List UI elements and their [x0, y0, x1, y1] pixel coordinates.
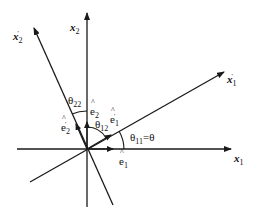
theta11-arc [119, 131, 124, 149]
e1-prime-vector [87, 135, 111, 149]
e1-label: e1 [119, 156, 128, 170]
x2-prime-label: x2' [13, 30, 19, 45]
x2-label: x2 [70, 22, 80, 36]
x2-prime-axis [34, 28, 113, 205]
e2-prime-vector [76, 124, 87, 149]
theta22-label: θ22 [68, 95, 81, 109]
theta12-label: θ12 [95, 119, 108, 133]
x1-label: x1 [234, 153, 244, 167]
e1-prime-label: e1' [110, 113, 115, 128]
theta11-label: θ11=θ [130, 132, 154, 146]
x1-prime-label: x1' [227, 73, 233, 88]
theta22-arc [72, 111, 87, 114]
rotation-diagram [0, 0, 258, 217]
e2-prime-label: e2' [61, 121, 66, 136]
